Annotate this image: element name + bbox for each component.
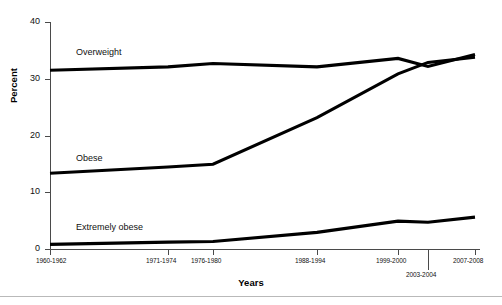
series-label-obese: Obese bbox=[76, 153, 103, 163]
x-axis-title: Years bbox=[0, 277, 502, 288]
x-tick-marks bbox=[51, 250, 476, 271]
x-tick-label-1999-2000: 1999-2000 bbox=[376, 257, 406, 264]
y-tick-label-10: 10 bbox=[22, 186, 40, 196]
y-tick-label-20: 20 bbox=[22, 130, 40, 140]
x-tick-label-1960-1962: 1960-1962 bbox=[36, 257, 66, 264]
obesity-trend-chart-figure: Percent 40 30 20 10 0 1960-1962 1971-197… bbox=[0, 0, 502, 305]
x-tick-label-1976-1980: 1976-1980 bbox=[191, 257, 221, 264]
y-tick-marks bbox=[45, 23, 51, 250]
y-axis-title: Percent bbox=[8, 68, 19, 103]
series-line-obese bbox=[50, 57, 475, 173]
figure-bottom-rule bbox=[0, 296, 502, 297]
x-tick-label-2007-2008: 2007-2008 bbox=[453, 257, 483, 264]
y-tick-label-40: 40 bbox=[22, 16, 40, 26]
y-tick-label-30: 30 bbox=[22, 73, 40, 83]
y-tick-label-0: 0 bbox=[22, 243, 40, 253]
series-label-overweight: Overweight bbox=[76, 47, 122, 57]
x-tick-label-1971-1974: 1971-1974 bbox=[146, 257, 176, 264]
series-label-extremely-obese: Extremely obese bbox=[76, 222, 143, 232]
x-tick-label-1988-1994: 1988-1994 bbox=[295, 257, 325, 264]
